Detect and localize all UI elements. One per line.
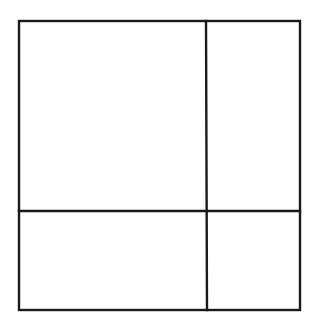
region-top-right	[206, 21, 300, 211]
vertical-divider	[206, 21, 207, 310]
region-bottom-left	[19, 211, 206, 310]
partitioned-square-diagram	[0, 0, 316, 326]
region-top-left	[19, 21, 206, 211]
region-bottom-right	[206, 211, 300, 310]
